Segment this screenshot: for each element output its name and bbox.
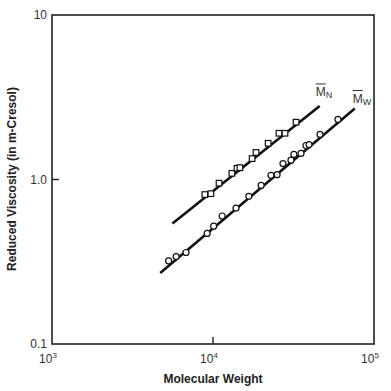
data-point-circle: [274, 172, 280, 178]
data-point-circle: [211, 223, 217, 229]
plot-border: [52, 15, 374, 344]
data-point-square: [208, 191, 214, 197]
data-point-square: [282, 130, 288, 136]
data-point-square: [237, 165, 243, 171]
series-label-w: MW: [353, 92, 372, 107]
data-point-square: [276, 130, 282, 136]
data-point-circle: [233, 205, 239, 211]
data-point-square: [202, 192, 208, 198]
data-point-circle: [204, 230, 210, 236]
series-w: [160, 109, 355, 274]
data-point-circle: [280, 161, 286, 167]
data-point-circle: [268, 172, 274, 178]
data-point-circle: [298, 150, 304, 156]
data-point-circle: [317, 131, 323, 137]
x-tick-label: 105: [361, 351, 379, 366]
data-point-circle: [288, 157, 294, 163]
data-point-circle: [166, 258, 172, 264]
x-tick-label: 103: [39, 351, 57, 366]
data-point-square: [249, 156, 255, 162]
series-layer: [160, 106, 355, 273]
y-tick-label: 1.0: [30, 173, 47, 187]
y-tick-label: 0.1: [30, 337, 47, 351]
series-n: [172, 106, 319, 224]
y-axis-ticks: 101.00.1: [30, 8, 59, 351]
chart-canvas: 103104105 101.00.1 MNMW Molecular Weight…: [0, 0, 391, 391]
x-axis-ticks: 103104105: [39, 337, 379, 366]
data-point-circle: [219, 213, 225, 219]
y-tick-label: 10: [34, 8, 48, 22]
x-axis-title: Molecular Weight: [163, 372, 262, 386]
data-point-circle: [291, 151, 297, 157]
data-point-square: [216, 180, 222, 186]
data-point-circle: [246, 193, 252, 199]
y-axis-title: Reduced Viscosity (in m-Cresol): [5, 87, 19, 271]
x-tick-label: 104: [200, 351, 218, 366]
series-label-n: MN: [316, 85, 333, 100]
data-point-circle: [183, 249, 189, 255]
data-point-circle: [335, 116, 341, 122]
data-point-circle: [258, 182, 264, 188]
data-point-square: [253, 150, 259, 156]
data-point-circle: [306, 142, 312, 148]
data-point-circle: [173, 254, 179, 260]
data-point-square: [293, 119, 299, 125]
plot-frame: [52, 15, 374, 344]
data-point-square: [265, 140, 271, 146]
series-labels: MNMW: [316, 84, 372, 107]
fit-line: [160, 109, 355, 274]
